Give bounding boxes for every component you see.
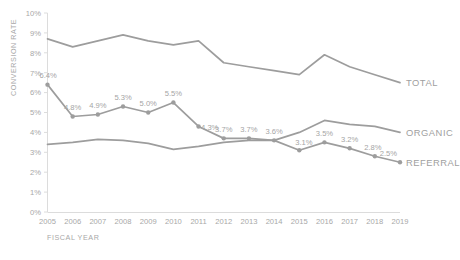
series-line-total bbox=[48, 35, 401, 83]
series-legend-layer: TOTALORGANICREFERRAL bbox=[406, 77, 460, 168]
y-axis-tick-label: 5% bbox=[30, 108, 41, 117]
data-point-marker bbox=[247, 136, 251, 140]
data-point-label: 5.3% bbox=[114, 93, 132, 102]
x-axis-tick-label: 2005 bbox=[39, 217, 56, 226]
data-point-marker bbox=[398, 160, 402, 164]
x-axis-title: FISCAL YEAR bbox=[47, 233, 99, 242]
y-axis-tick-label: 1% bbox=[30, 188, 41, 197]
x-axis-tick-label: 2006 bbox=[64, 217, 81, 226]
y-axis-tick-label: 9% bbox=[30, 29, 41, 38]
data-point-marker bbox=[272, 138, 276, 142]
y-axis-tick-label: 0% bbox=[30, 208, 41, 217]
series-legend-label-referral: REFERRAL bbox=[406, 157, 460, 168]
x-axis-tick-label: 2011 bbox=[190, 217, 206, 226]
x-axis-tick-label: 2008 bbox=[115, 217, 132, 226]
data-point-marker bbox=[96, 112, 100, 116]
y-axis-tick-label: 2% bbox=[30, 168, 41, 177]
y-axis-tick-label: 10% bbox=[26, 9, 41, 18]
x-axis-tick-label: 2016 bbox=[316, 217, 333, 226]
data-point-label: 4.8% bbox=[64, 103, 82, 112]
data-point-marker bbox=[70, 114, 74, 118]
data-point-marker bbox=[347, 146, 351, 150]
y-axis-title: CONVERSION RATE bbox=[9, 19, 18, 96]
data-point-marker bbox=[45, 82, 49, 86]
data-point-label: 4.9% bbox=[89, 101, 107, 110]
data-point-marker bbox=[297, 148, 301, 152]
data-point-marker bbox=[373, 154, 377, 158]
x-axis-tick-label: 2007 bbox=[89, 217, 106, 226]
data-point-marker bbox=[146, 110, 150, 114]
x-axis-tick-label: 2015 bbox=[291, 217, 308, 226]
conversion-rate-line-chart: 0%1%2%3%4%5%6%7%8%9%10% 2005200620072008… bbox=[0, 0, 460, 260]
x-axis-group: 2005200620072008200920102011201220132014… bbox=[39, 213, 408, 227]
x-axis-tick-label: 2014 bbox=[266, 217, 283, 226]
series-legend-label-total: TOTAL bbox=[406, 77, 438, 88]
y-axis-tick-labels: 0%1%2%3%4%5%6%7%8%9%10% bbox=[26, 9, 41, 217]
series-legend-label-organic: ORGANIC bbox=[406, 127, 453, 138]
data-point-marker bbox=[171, 100, 175, 104]
x-axis-tick-label: 2012 bbox=[215, 217, 232, 226]
x-axis-tick-label: 2019 bbox=[392, 217, 409, 226]
data-point-label: 3.1% bbox=[295, 138, 313, 147]
y-axis-ticks bbox=[44, 13, 48, 212]
chart-canvas: 0%1%2%3%4%5%6%7%8%9%10% 2005200620072008… bbox=[0, 0, 460, 260]
y-axis-tick-label: 4% bbox=[30, 128, 41, 137]
y-axis-tick-label: 8% bbox=[30, 49, 41, 58]
x-axis-tick-label: 2010 bbox=[165, 217, 182, 226]
data-point-marker bbox=[322, 140, 326, 144]
data-point-label: 5.0% bbox=[140, 99, 158, 108]
data-point-label: 3.5% bbox=[316, 129, 334, 138]
x-axis-tick-label: 2009 bbox=[140, 217, 157, 226]
data-point-label: 3.7% bbox=[240, 125, 258, 134]
data-point-marker bbox=[121, 104, 125, 108]
data-point-label: 3.6% bbox=[265, 127, 283, 136]
data-point-label: 5.5% bbox=[165, 89, 183, 98]
data-point-label: 3.7% bbox=[215, 125, 233, 134]
y-axis-tick-label: 3% bbox=[30, 148, 41, 157]
y-axis-tick-label: 6% bbox=[30, 88, 41, 97]
x-axis-tick-label: 2017 bbox=[341, 217, 358, 226]
data-point-label: 6.4% bbox=[40, 71, 58, 80]
data-point-marker bbox=[222, 136, 226, 140]
data-point-label: 2.5% bbox=[380, 149, 398, 158]
x-axis-tick-labels: 2005200620072008200920102011201220132014… bbox=[39, 217, 408, 226]
x-axis-tick-label: 2018 bbox=[366, 217, 383, 226]
data-point-label: 3.2% bbox=[341, 135, 359, 144]
y-axis-group: 0%1%2%3%4%5%6%7%8%9%10% bbox=[26, 9, 48, 217]
x-axis-tick-label: 2013 bbox=[240, 217, 257, 226]
